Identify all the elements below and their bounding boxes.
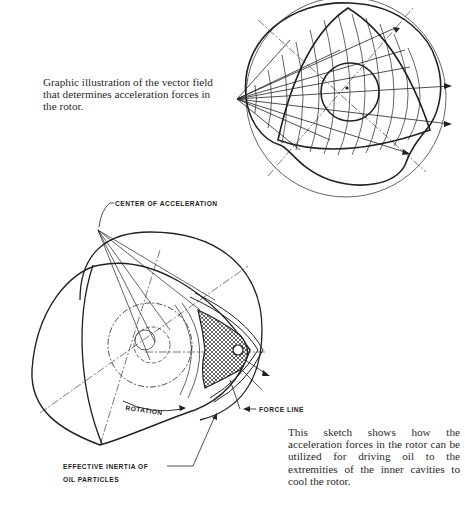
oil-particles-label: OIL PARTICLES bbox=[63, 476, 119, 483]
effective-inertia-label: EFFECTIVE INERTIA OF bbox=[63, 463, 148, 470]
vector-field-caption: Graphic illustration of the vector field… bbox=[43, 76, 213, 113]
oil-cooling-caption: This sketch shows how the acceleration f… bbox=[288, 426, 460, 487]
force-line-label: FORCE LINE bbox=[259, 406, 304, 413]
center-of-acceleration-label: CENTER OF ACCELERATION bbox=[115, 200, 218, 207]
